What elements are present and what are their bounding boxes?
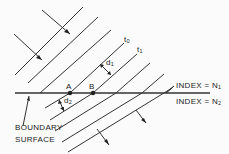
label-index-n1: INDEX = N1 (176, 82, 221, 91)
label-index-n2-sub: 2 (218, 100, 221, 106)
ray-arrow (14, 34, 42, 60)
arrowhead-icon (58, 100, 62, 104)
wavefront-lower (68, 88, 172, 152)
label-t1-sub: 1 (140, 48, 143, 54)
wavefront-upper (142, 74, 164, 93)
label-t0-sub: 0 (127, 38, 130, 44)
label-d1-sub: 1 (111, 61, 114, 67)
label-d2-sub: 2 (69, 99, 72, 105)
label-t0: t0 (124, 36, 130, 45)
boundary-pointer (23, 96, 29, 126)
point-b-dot (91, 91, 95, 95)
label-boundary: BOUNDARY (15, 124, 63, 132)
arrowhead-icon (60, 107, 64, 111)
label-d1: d1 (106, 59, 114, 68)
arrowhead-icon (141, 118, 146, 123)
wavefront-t1 (93, 54, 137, 93)
label-index-n1-text: INDEX = N (176, 81, 218, 90)
label-index-n2-text: INDEX = N (176, 97, 218, 106)
index-leader (166, 86, 174, 93)
point-a-dot (68, 91, 72, 95)
wavefront-t0 (70, 43, 124, 93)
label-t1: t1 (137, 46, 143, 55)
label-point-b: B (89, 83, 95, 91)
label-point-a: A (66, 83, 72, 91)
label-index-n1-sub: 1 (218, 84, 221, 90)
refraction-diagram: t0 t1 d1 d2 A B INDEX = N1 INDEX = N2 BO… (0, 0, 229, 154)
label-surface: SURFACE (15, 136, 55, 144)
label-index-n2: INDEX = N2 (176, 98, 221, 107)
wavefront-lower (62, 93, 142, 142)
label-d2: d2 (64, 97, 72, 106)
